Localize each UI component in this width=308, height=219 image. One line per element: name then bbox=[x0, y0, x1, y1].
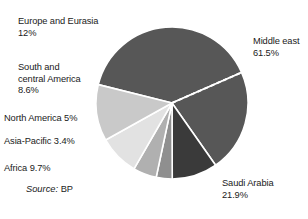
chart-figure: Europe and Eurasia 12% South and central… bbox=[0, 0, 308, 219]
slice-label-saudi-arabia: Saudi Arabia 21.9% bbox=[222, 178, 306, 201]
pie-chart-svg bbox=[94, 25, 250, 181]
source-label: Source: bbox=[26, 184, 58, 194]
slice-label-south-and-central-america: South and central America 8.6% bbox=[18, 62, 150, 97]
pie-chart bbox=[94, 25, 250, 181]
slice-label-middle-east: Middle east 61.5% bbox=[253, 36, 308, 59]
slice-label-europe-and-eurasia: Europe and Eurasia 12% bbox=[18, 16, 150, 39]
source-value: BP bbox=[61, 184, 73, 194]
slice-label-africa: Africa 9.7% bbox=[4, 163, 150, 175]
slice-label-asia-pacific: Asia-Pacific 3.4% bbox=[4, 136, 150, 148]
slice-label-north-america: North America 5% bbox=[4, 113, 150, 125]
source-note: Source: BP bbox=[26, 184, 73, 194]
